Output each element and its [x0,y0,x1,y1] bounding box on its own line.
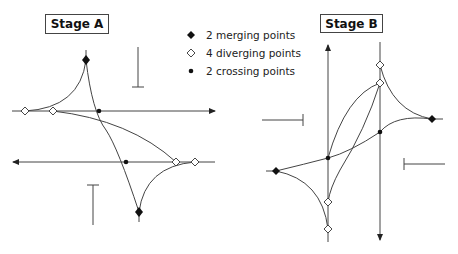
turn-curve [25,60,86,111]
crossing-point-icon [326,156,331,161]
crossing-point-icon [97,109,102,114]
merging-point-icon [82,55,90,65]
filled-diamond-icon [182,30,200,40]
legend-item-diverging: 4 diverging points [182,44,301,62]
merging-point-icon [272,167,280,175]
diverging-point-icon [324,198,332,206]
turn-curve [328,83,380,202]
turn-curve [276,171,328,229]
legend-label: 2 merging points [206,29,295,41]
legend-item-merging: 2 merging points [182,26,301,44]
legend-label: 4 diverging points [206,47,301,59]
hollow-diamond-icon [182,48,200,58]
turn-curve [86,50,139,222]
turn-curve [266,118,432,171]
turn-curve [380,65,443,119]
diverging-point-icon [324,225,332,233]
crossing-point-icon [124,160,129,165]
turn-curve [139,162,195,212]
diverging-point-icon [21,107,29,115]
legend: 2 merging points 4 diverging points 2 cr… [182,26,301,80]
stage-b-title: Stage B [320,14,383,33]
diverging-point-icon [49,107,57,115]
crossing-point-icon [378,130,383,135]
diverging-point-icon [191,158,199,166]
stage-a-title: Stage A [45,14,109,34]
filled-dot-icon [182,66,200,76]
turn-curve [53,111,176,162]
diverging-point-icon [376,61,384,69]
merging-point-icon [135,207,143,217]
diverging-point-icon [376,79,384,87]
legend-label: 2 crossing points [206,65,295,77]
merging-point-icon [428,115,436,123]
turn-curve [328,83,380,158]
legend-item-crossing: 2 crossing points [182,62,301,80]
